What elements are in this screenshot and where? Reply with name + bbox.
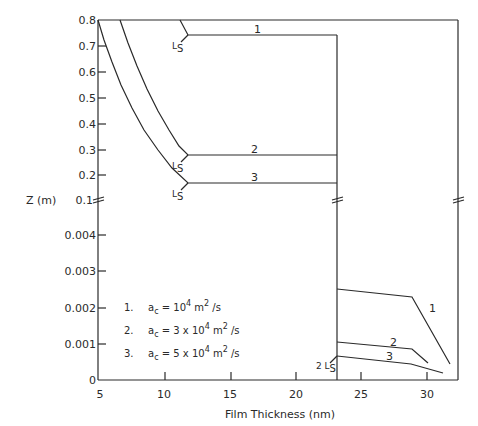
svg-text:0.003: 0.003 [65, 265, 97, 278]
y-ticks-upper [98, 46, 106, 175]
legend: 1. ac = 104 m2 /s 2. ac = 3 x 104 m2 /s … [124, 299, 240, 362]
y-ticks-lower [98, 235, 106, 344]
svg-text:2: 2 [251, 143, 258, 156]
svg-text:5: 5 [97, 388, 104, 401]
svg-text:0.002: 0.002 [65, 302, 97, 315]
svg-text:ac = 5 x 104 m2 /s: ac = 5 x 104 m2 /s [148, 345, 240, 362]
svg-text:LS: LS [172, 161, 183, 174]
axis-break-marks [93, 197, 464, 203]
x-axis-label: Film Thickness (nm) [225, 408, 335, 421]
chart: 0.8 0.7 0.6 0.5 0.4 0.3 0.2 0.1 0.004 0.… [0, 0, 478, 426]
y-tick-labels: 0.8 0.7 0.6 0.5 0.4 0.3 0.2 0.1 0.004 0.… [65, 14, 97, 387]
svg-text:0.3: 0.3 [79, 144, 97, 157]
svg-text:0.001: 0.001 [65, 338, 97, 351]
svg-text:ac = 3 x 104 m2 /s: ac = 3 x 104 m2 /s [148, 322, 240, 339]
curve-2-upper [120, 20, 337, 155]
svg-text:LS: LS [172, 41, 183, 54]
svg-text:0.7: 0.7 [79, 40, 97, 53]
curve-3-upper [98, 20, 337, 183]
svg-text:ac = 104 m2 /s: ac = 104 m2 /s [148, 299, 221, 316]
svg-text:0.4: 0.4 [79, 118, 97, 131]
svg-text:0.2: 0.2 [79, 169, 97, 182]
curve-labels: 1 2 3 1 2 3 [251, 23, 436, 363]
svg-text:2: 2 [390, 336, 397, 349]
svg-text:2.: 2. [124, 325, 134, 336]
svg-text:1.: 1. [124, 302, 134, 313]
curve-1-lower [337, 289, 450, 364]
svg-text:LS: LS [172, 189, 183, 202]
svg-text:1: 1 [429, 302, 436, 315]
x-tick-labels: 5 10 15 20 25 30 [97, 388, 435, 401]
svg-text:10: 10 [157, 388, 171, 401]
svg-text:25: 25 [354, 388, 368, 401]
svg-text:20: 20 [289, 388, 303, 401]
svg-text:2 LS: 2 LS [316, 361, 336, 374]
svg-text:30: 30 [420, 388, 434, 401]
svg-text:0.1: 0.1 [76, 194, 94, 207]
svg-text:3: 3 [386, 350, 393, 363]
curve-2-lower [337, 342, 428, 363]
svg-text:0: 0 [89, 374, 96, 387]
svg-text:0.5: 0.5 [79, 92, 97, 105]
svg-text:0.8: 0.8 [79, 14, 97, 27]
svg-text:1: 1 [254, 23, 261, 36]
svg-text:3.: 3. [124, 348, 134, 359]
svg-text:0.004: 0.004 [65, 229, 97, 242]
y-axis-label: Z (m) [26, 194, 56, 207]
svg-text:0.6: 0.6 [79, 66, 97, 79]
x-ticks [165, 372, 427, 380]
svg-text:3: 3 [251, 171, 258, 184]
svg-text:15: 15 [223, 388, 237, 401]
